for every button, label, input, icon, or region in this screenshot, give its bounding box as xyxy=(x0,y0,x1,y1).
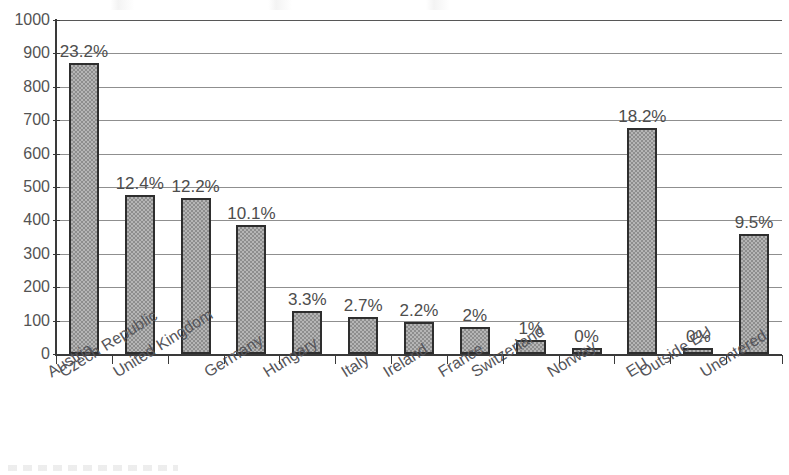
x-axis-tick-mark xyxy=(782,355,783,364)
bar-group: 18.2% xyxy=(614,20,670,354)
x-axis-tick-mark xyxy=(112,355,113,364)
scan-artifact-top xyxy=(0,0,789,10)
bar-group: 2.7% xyxy=(335,20,391,354)
y-axis-tick-mark xyxy=(53,287,60,288)
x-axis-tick-mark xyxy=(335,355,336,364)
bar-group: 1% xyxy=(503,20,559,354)
y-axis-tick-mark xyxy=(53,120,60,121)
bar-value-label: 2.2% xyxy=(400,302,439,319)
bar-value-label: 2.7% xyxy=(344,297,383,314)
y-axis-tick-mark xyxy=(53,154,60,155)
y-axis-tick-mark xyxy=(53,220,60,221)
x-axis-tick-mark xyxy=(56,355,57,364)
x-axis-tick-mark xyxy=(503,355,504,364)
y-axis-tick-label: 700 xyxy=(0,112,50,128)
bars-layer: 23.2%12.4%12.2%10.1%3.3%2.7%2.2%2%1%0%18… xyxy=(56,20,782,354)
bar-value-label: 23.2% xyxy=(60,43,108,60)
bar-group: 12.4% xyxy=(112,20,168,354)
bar-group: 12.2% xyxy=(168,20,224,354)
x-axis-tick-mark xyxy=(168,355,169,364)
x-axis-tick-mark xyxy=(670,355,671,364)
y-axis-tick-label: 300 xyxy=(0,246,50,262)
y-axis-tick-mark xyxy=(53,87,60,88)
y-axis-tick-label: 900 xyxy=(0,45,50,61)
bar-group: 2.2% xyxy=(391,20,447,354)
bar-group: 9.5% xyxy=(726,20,782,354)
y-axis-tick-mark xyxy=(53,321,60,322)
x-axis-category-labels: AustriaCzech RepublicUnited KingdomGerma… xyxy=(56,366,782,466)
bar xyxy=(69,63,99,354)
y-axis-tick-label: 100 xyxy=(0,313,50,329)
bar-chart: 01002003004005006007008009001000 23.2%12… xyxy=(0,0,789,475)
bar-value-label: 12.2% xyxy=(172,178,220,195)
y-axis-tick-mark xyxy=(53,20,60,21)
y-axis-tick-label: 200 xyxy=(0,279,50,295)
bar-group: 0% xyxy=(670,20,726,354)
y-axis-tick-mark xyxy=(53,254,60,255)
x-axis-tick-mark xyxy=(279,355,280,364)
x-axis-tick-mark xyxy=(447,355,448,364)
bar-value-label: 12.4% xyxy=(116,175,164,192)
bar-value-label: 2% xyxy=(463,307,488,324)
x-axis-tick-mark xyxy=(224,355,225,364)
x-axis-tick-mark xyxy=(614,355,615,364)
y-axis-tick-label: 0 xyxy=(0,346,50,362)
y-axis-tick-mark xyxy=(53,53,60,54)
bar-group: 0% xyxy=(559,20,615,354)
y-axis-tick-mark xyxy=(53,187,60,188)
y-axis-tick-label: 800 xyxy=(0,79,50,95)
bar-value-label: 18.2% xyxy=(618,108,666,125)
bar xyxy=(348,317,378,354)
bar-group: 23.2% xyxy=(56,20,112,354)
bar-value-label: 3.3% xyxy=(288,291,327,308)
bar-value-label: 10.1% xyxy=(227,205,275,222)
bar-value-label: 9.5% xyxy=(735,214,774,231)
bar-group: 3.3% xyxy=(279,20,335,354)
bar-group: 10.1% xyxy=(224,20,280,354)
y-axis-tick-label: 500 xyxy=(0,179,50,195)
scan-artifact-bottom xyxy=(8,465,178,471)
y-axis-tick-label: 600 xyxy=(0,146,50,162)
x-axis-tick-mark xyxy=(559,355,560,364)
x-axis-tick-mark xyxy=(726,355,727,364)
bar-group: 2% xyxy=(447,20,503,354)
y-axis-tick-label: 400 xyxy=(0,212,50,228)
y-axis-tick-labels: 01002003004005006007008009001000 xyxy=(0,20,50,354)
x-axis-tick-mark xyxy=(391,355,392,364)
bar xyxy=(627,128,657,354)
y-axis-tick-label: 1000 xyxy=(0,12,50,28)
